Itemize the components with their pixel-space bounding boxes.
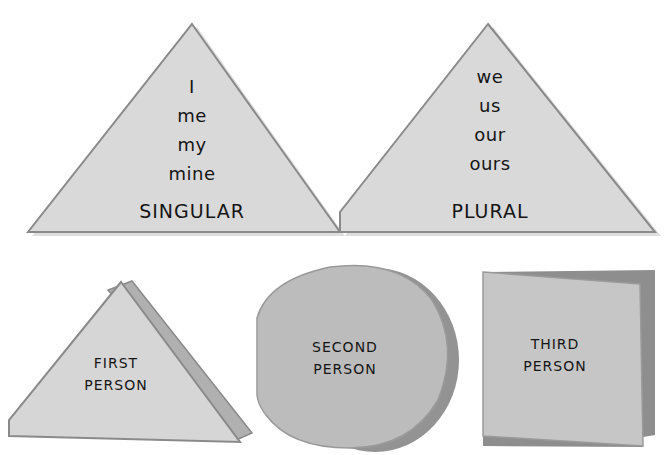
plural-pronoun-list: we us our ours xyxy=(469,62,510,178)
pronoun-i: I xyxy=(168,72,215,101)
pronoun-us: us xyxy=(469,91,510,120)
singular-pronoun-list: I me my mine xyxy=(168,72,215,188)
plural-label: PLURAL xyxy=(451,200,528,222)
pronoun-my: my xyxy=(168,130,215,159)
second-person-line1: SECOND xyxy=(312,336,378,358)
pronoun-mine: mine xyxy=(168,159,215,188)
pronoun-we: we xyxy=(469,62,510,91)
second-person-line2: PERSON xyxy=(312,358,378,380)
pronoun-our: our xyxy=(469,120,510,149)
first-person-label: FIRST PERSON xyxy=(84,352,147,396)
first-person-line2: PERSON xyxy=(84,374,147,396)
third-person-line2: PERSON xyxy=(523,355,586,377)
pronoun-me: me xyxy=(168,101,215,130)
first-person-line1: FIRST xyxy=(84,352,147,374)
third-person-line1: THIRD xyxy=(523,333,586,355)
pronoun-diagram: I me my mine SINGULAR we us our ours PLU… xyxy=(0,0,668,455)
pronoun-ours: ours xyxy=(469,149,510,178)
singular-label: SINGULAR xyxy=(139,200,245,222)
second-person-label: SECOND PERSON xyxy=(312,336,378,380)
third-person-label: THIRD PERSON xyxy=(523,333,586,377)
